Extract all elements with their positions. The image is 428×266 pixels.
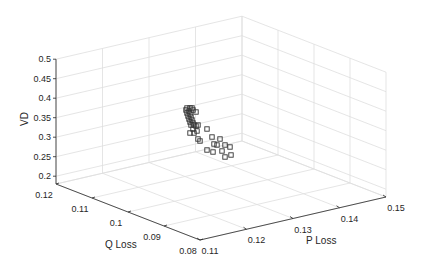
square-marker xyxy=(205,127,209,131)
x-tick-label: 0.11 xyxy=(202,246,219,256)
z-tick-label: 0.5 xyxy=(38,54,51,64)
y-tick xyxy=(92,197,95,198)
z-tick-label: 0.4 xyxy=(38,93,51,103)
x-tick-label: 0.14 xyxy=(341,214,359,224)
y-axis-label: Q Loss xyxy=(105,239,137,250)
grid-lines xyxy=(56,16,386,240)
scatter-3d-plot: 0.110.120.130.140.150.080.090.10.110.120… xyxy=(0,0,428,266)
z-axis-label: VD xyxy=(19,112,30,126)
square-marker xyxy=(211,150,215,154)
data-markers xyxy=(184,106,233,159)
y-tick xyxy=(128,211,131,212)
z-tick-label: 0.2 xyxy=(38,171,51,181)
z-tick-label: 0.25 xyxy=(33,152,51,162)
y-tick-label: 0.1 xyxy=(110,218,123,228)
z-tick-label: 0.35 xyxy=(33,113,51,123)
x-tick-label: 0.15 xyxy=(387,203,405,213)
z-tick-label: 0.3 xyxy=(38,132,51,142)
y-tick-label: 0.09 xyxy=(143,232,161,242)
y-tick-label: 0.12 xyxy=(35,190,53,200)
x-axis-label: P Loss xyxy=(306,235,336,246)
square-marker xyxy=(220,149,224,153)
y-tick-label: 0.08 xyxy=(179,246,197,256)
square-marker xyxy=(229,153,233,157)
square-marker xyxy=(228,145,232,149)
square-marker xyxy=(210,135,214,139)
z-tick-label: 0.45 xyxy=(33,74,51,84)
y-tick xyxy=(56,183,59,184)
x-tick-label: 0.12 xyxy=(248,235,266,245)
y-tick xyxy=(200,239,203,240)
y-tick xyxy=(164,225,167,226)
x-tick-label: 0.13 xyxy=(294,225,312,235)
floor-grid-line xyxy=(128,169,314,212)
floor-grid-line xyxy=(164,183,350,226)
square-marker xyxy=(223,155,227,159)
y-tick-label: 0.11 xyxy=(72,204,89,214)
